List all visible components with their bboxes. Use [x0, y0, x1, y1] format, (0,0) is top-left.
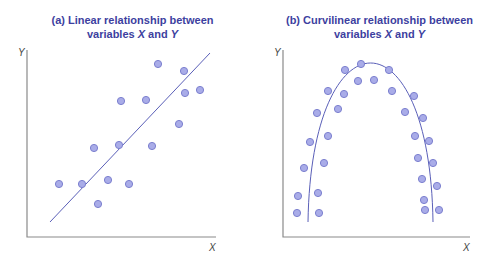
panel-b-x-label: X: [462, 242, 470, 253]
panel-b-data-point: [419, 114, 426, 121]
panel-b-data-point: [429, 159, 436, 166]
panel-b-data-point: [313, 109, 320, 116]
panel-b-data-point: [401, 108, 408, 115]
panel-b-data-point: [425, 137, 432, 144]
panel-b-data-point: [388, 87, 395, 94]
panel-a-data-point: [78, 180, 85, 187]
panel-a-data-point: [142, 96, 149, 103]
panel-a-data-point: [148, 142, 155, 149]
panel-a-regression-line: [50, 53, 210, 222]
panel-b-data-point: [294, 192, 301, 199]
panel-a-data-point: [104, 176, 111, 183]
panel-a-data-point: [94, 200, 101, 207]
panel-b-data-point: [324, 87, 331, 94]
panel-b-data-point: [370, 76, 377, 83]
panel-a-data-point: [115, 141, 122, 148]
panel-a-data-point: [175, 120, 182, 127]
panel-a-y-label: Y: [18, 47, 26, 58]
panel-b-y-label: Y: [274, 47, 282, 58]
panel-b-data-point: [410, 92, 417, 99]
panel-b-data-point: [411, 132, 418, 139]
panel-b-data-point: [435, 206, 442, 213]
panel-b-data-point: [414, 154, 421, 161]
panel-b-data-point: [293, 209, 300, 216]
panel-b-fit-curve: [308, 63, 433, 222]
panel-b-data-point: [315, 209, 322, 216]
panel-a-data-point: [180, 67, 187, 74]
panel-a-data-point: [55, 180, 62, 187]
panel-b-data-point: [357, 60, 364, 67]
panel-b-data-point: [300, 164, 307, 171]
panel-b-data-point: [354, 77, 361, 84]
scatter-plots: YXYX: [0, 0, 488, 265]
panel-b-data-point: [306, 138, 313, 145]
panel-a-data-point: [154, 60, 161, 67]
panel-b-data-point: [385, 66, 392, 73]
panel-b-data-point: [421, 206, 428, 213]
panel-b-data-point: [418, 175, 425, 182]
panel-b-data-point: [341, 66, 348, 73]
panel-b-data-point: [320, 159, 327, 166]
panel-b-data-point: [334, 105, 341, 112]
panel-a-x-label: X: [208, 242, 216, 253]
panel-b-data-point: [340, 90, 347, 97]
panel-a-data-point: [196, 86, 203, 93]
panel-b-data-point: [420, 196, 427, 203]
panel-a-data-point: [181, 89, 188, 96]
panel-b-data-point: [324, 132, 331, 139]
panel-a-data-point: [125, 180, 132, 187]
panel-b-data-point: [314, 189, 321, 196]
panel-b-data-point: [433, 182, 440, 189]
panel-a-data-point: [90, 144, 97, 151]
panel-a-data-point: [117, 97, 124, 104]
